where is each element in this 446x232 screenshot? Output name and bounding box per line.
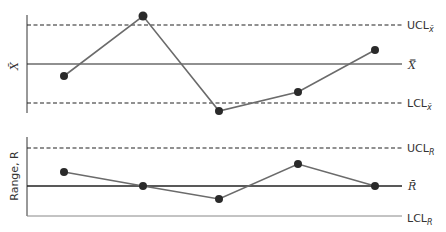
xbar-ucl-label: UCLx̄ <box>407 19 434 34</box>
range-point <box>371 182 379 190</box>
range-chart: Range, R UCLR R̄ LCLR <box>8 137 434 227</box>
xbar-point <box>139 12 148 21</box>
range-markers <box>60 160 379 203</box>
xbar-point <box>60 72 68 80</box>
control-charts: X̄ UCLx̄ X̿ LCLx̄ Range, R UCLR R̄ LCLR <box>0 0 446 232</box>
range-ucl-label: UCLR <box>407 142 434 157</box>
range-point <box>215 195 223 203</box>
xbar-chart: X̄ UCLx̄ X̿ LCLx̄ <box>8 12 434 116</box>
range-point <box>139 182 147 190</box>
xbar-point <box>294 88 302 96</box>
range-lcl-label: LCLR <box>407 212 433 227</box>
range-series-line <box>64 164 375 199</box>
xbar-point <box>371 46 379 54</box>
xbar-lcl-label: LCLx̄ <box>407 97 432 112</box>
xbar-point <box>215 107 223 115</box>
xbar-y-label: X̄ <box>8 61 21 71</box>
range-point <box>60 168 68 176</box>
xbar-markers <box>60 12 379 116</box>
range-point <box>294 160 302 168</box>
range-center-label: R̄ <box>407 180 416 193</box>
range-y-label: Range, R <box>8 151 21 201</box>
xbar-center-label: X̿ <box>407 59 417 72</box>
